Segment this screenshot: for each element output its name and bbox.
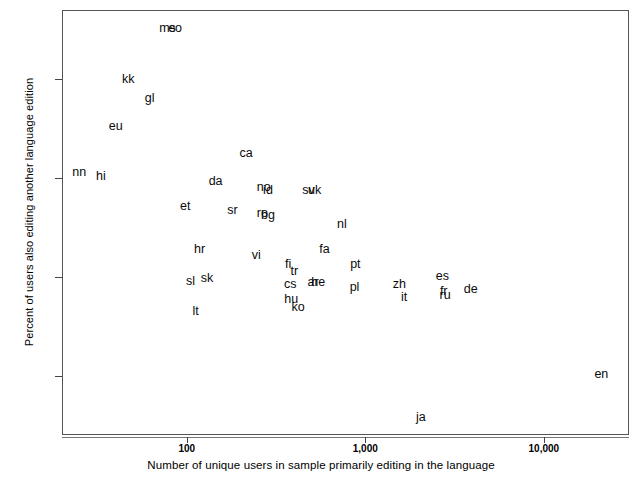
data-point-label: he	[311, 276, 325, 289]
data-point-label: hr	[194, 243, 205, 256]
x-tick-mark	[187, 437, 188, 443]
x-tick-label: 100	[157, 443, 217, 454]
y-tick-mark	[55, 376, 62, 377]
y-tick-mark	[55, 178, 62, 179]
data-point-label: uk	[308, 184, 321, 197]
scatter-plot-figure: Percent of users also editing another la…	[0, 0, 642, 483]
data-point-label: ko	[291, 300, 304, 313]
data-point-label: eu	[109, 119, 123, 132]
data-point-label: es	[436, 270, 449, 283]
data-point-label: eo	[168, 22, 182, 35]
data-point-label: de	[464, 282, 478, 295]
data-point-label: fa	[319, 243, 329, 256]
y-axis-title: Percent of users also editing another la…	[23, 12, 35, 412]
data-point-label: vi	[252, 249, 261, 262]
data-point-label: id	[263, 184, 273, 197]
data-point-label: nl	[337, 218, 347, 231]
data-point-label: tr	[290, 265, 298, 278]
data-point-label: pl	[350, 280, 360, 293]
data-point-label: it	[401, 290, 407, 303]
data-point-label: sr	[227, 203, 237, 216]
data-point-label: nn	[72, 166, 86, 179]
y-tick-mark	[55, 79, 62, 80]
data-point-label: kk	[122, 73, 135, 86]
x-tick-mark	[365, 437, 366, 443]
data-point-label: en	[594, 367, 608, 380]
data-point-label: ca	[240, 147, 253, 160]
data-point-label: et	[180, 199, 190, 212]
data-point-label: bg	[261, 208, 275, 221]
x-tick-mark	[544, 437, 545, 443]
x-tick-label: 1,000	[335, 443, 395, 454]
data-point-label: cs	[284, 278, 297, 291]
data-point-label: sk	[201, 272, 214, 285]
data-point-label: zh	[393, 278, 406, 291]
y-tick-mark	[55, 277, 62, 278]
data-point-label: sl	[186, 275, 195, 288]
data-point-label: pt	[350, 258, 360, 271]
x-tick-label: 10,000	[514, 443, 574, 454]
data-point-label: hi	[96, 170, 106, 183]
data-point-label: gl	[145, 92, 155, 105]
x-axis-title: Number of unique users in sample primari…	[0, 459, 642, 471]
data-point-label: ru	[440, 288, 451, 301]
data-point-label: da	[209, 175, 223, 188]
data-point-label: ja	[416, 411, 426, 424]
data-point-label: lt	[192, 305, 198, 318]
